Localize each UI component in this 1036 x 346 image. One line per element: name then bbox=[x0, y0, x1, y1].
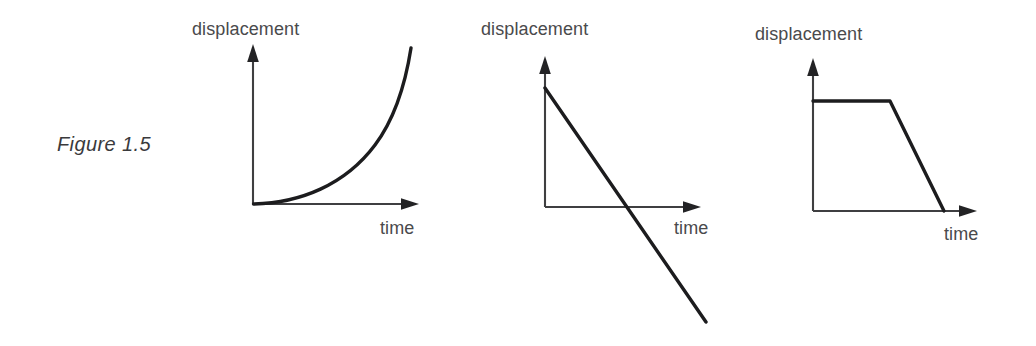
figure-caption: Figure 1.5 bbox=[57, 133, 151, 156]
panel-2-x-axis-arrowhead bbox=[683, 201, 701, 213]
panel-3-x-axis-label: time bbox=[944, 224, 978, 245]
panel-3-x-axis-arrowhead bbox=[959, 205, 977, 217]
panel-3-plateau-then-fall-line bbox=[813, 101, 944, 211]
panel-1-x-axis-arrowhead bbox=[401, 198, 419, 210]
panel-2-x-axis-label: time bbox=[674, 218, 708, 239]
panel-3-y-axis-arrowhead bbox=[807, 58, 819, 76]
panel-1-increasing-curve bbox=[254, 48, 412, 204]
panel-1-x-axis-label: time bbox=[380, 218, 414, 239]
panel-3-y-axis-label: displacement bbox=[755, 24, 862, 45]
panel-3-graph bbox=[807, 58, 977, 217]
panel-2-graph bbox=[539, 56, 706, 322]
panel-1-graph bbox=[247, 44, 419, 210]
figure-plot-canvas bbox=[0, 0, 1036, 346]
panel-2-y-axis-label: displacement bbox=[481, 19, 588, 40]
figure-sheet: Figure 1.5 displacement time displacemen… bbox=[0, 0, 1036, 346]
panel-2-y-axis-arrowhead bbox=[539, 56, 551, 74]
panel-2-decreasing-line bbox=[545, 88, 706, 322]
panel-1-y-axis-arrowhead bbox=[247, 44, 259, 62]
panel-1-y-axis-label: displacement bbox=[192, 19, 299, 40]
